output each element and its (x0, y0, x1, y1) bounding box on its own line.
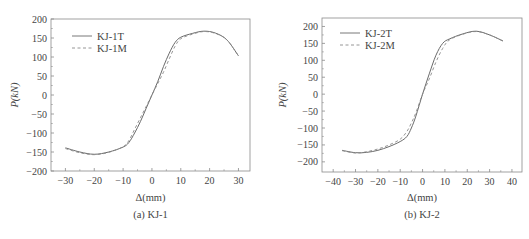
y-tick-label: −50 (302, 106, 318, 117)
y-tick-label: −150 (297, 139, 318, 150)
y-tick-label: 150 (32, 33, 47, 44)
x-tick-label: −30 (348, 176, 364, 187)
y-tick-label: −100 (26, 128, 47, 139)
y-tick-label: −200 (297, 156, 318, 167)
x-tick-label: −10 (392, 176, 408, 187)
y-tick-label: 0 (42, 90, 47, 101)
chart-caption: (a) KJ-1 (133, 209, 168, 221)
x-tick-label: −30 (58, 175, 74, 186)
series-line-kj-1m (65, 32, 238, 155)
legend-label: KJ-1T (97, 31, 124, 42)
figure: −200−150−100−50050100150200−30−20−100102… (0, 0, 529, 239)
legend: KJ-1T KJ-1M (72, 31, 127, 54)
y-axis-label: P(kN) (9, 82, 21, 109)
y-tick-label: 100 (32, 52, 47, 63)
legend-label: KJ-2T (365, 28, 392, 39)
x-tick-label: 10 (176, 175, 186, 186)
legend: KJ-2T KJ-2M (340, 28, 395, 51)
y-tick-label: 150 (303, 38, 318, 49)
x-tick-label: 40 (507, 176, 517, 187)
y-tick-label: 50 (37, 71, 47, 82)
y-tick-label: 200 (32, 14, 47, 25)
x-axis-label: Δ(mm) (407, 192, 438, 204)
chart-panel-kj1: −200−150−100−50050100150200−30−20−100102… (9, 14, 250, 222)
x-tick-label: 30 (485, 176, 495, 187)
x-tick-label: −20 (370, 176, 386, 187)
y-tick-label: −50 (31, 109, 47, 120)
y-tick-label: −200 (26, 166, 47, 177)
x-tick-label: −10 (115, 175, 131, 186)
series-line-kj-1t (65, 31, 238, 154)
series-group (65, 31, 238, 155)
x-tick-label: 20 (462, 176, 472, 187)
legend-label: KJ-1M (97, 43, 127, 54)
y-tick-label: −150 (26, 147, 47, 158)
x-tick-label: 0 (420, 176, 425, 187)
x-tick-label: 0 (149, 175, 154, 186)
x-axis-label: Δ(mm) (135, 192, 166, 204)
plot-frame (51, 19, 250, 171)
x-tick-label: 10 (440, 176, 450, 187)
y-tick-label: −100 (297, 123, 318, 134)
axis-ticks: −200−150−100−50050100150200−40−30−20−100… (297, 21, 517, 187)
y-tick-label: 100 (303, 55, 318, 66)
x-tick-label: 30 (233, 175, 243, 186)
x-tick-label: −40 (325, 176, 341, 187)
y-tick-label: 50 (308, 72, 318, 83)
legend-label: KJ-2M (365, 40, 395, 51)
x-tick-label: −20 (86, 175, 102, 186)
chart-panel-kj2: −200−150−100−50050100150200−40−30−20−100… (277, 18, 522, 221)
y-tick-label: 200 (303, 21, 318, 32)
x-tick-label: 20 (205, 175, 215, 186)
chart-caption: (b) KJ-2 (404, 209, 439, 221)
axis-ticks: −200−150−100−50050100150200−30−20−100102… (26, 14, 243, 187)
y-tick-label: 0 (313, 89, 318, 100)
y-axis-label: P(kN) (277, 82, 289, 109)
